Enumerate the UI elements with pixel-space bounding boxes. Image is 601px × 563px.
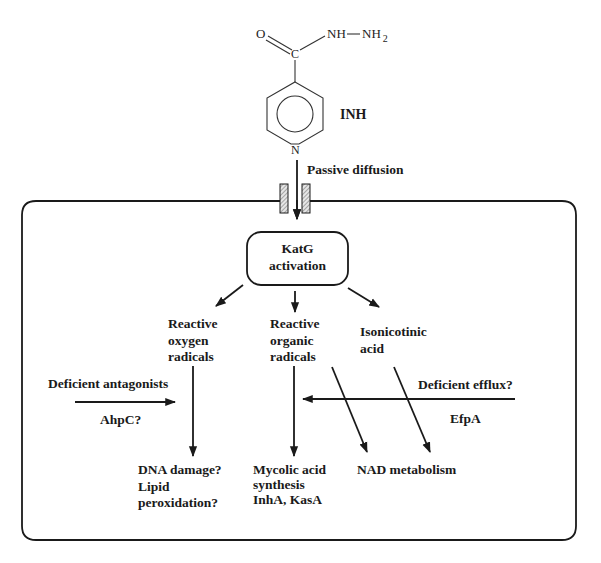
product-ros-line: radicals <box>168 349 217 366</box>
group-nh2-label: NH2 <box>362 27 388 42</box>
group-nh2-text: NH <box>362 26 381 41</box>
channel-left-bar <box>280 184 288 213</box>
arrow-to-ros <box>216 285 243 306</box>
channel-right-bar <box>302 184 310 213</box>
arrow-to-ina <box>348 288 379 307</box>
inh-label: INH <box>340 107 366 124</box>
outcome-nad: NAD metabolism <box>357 462 456 479</box>
antagonists-sublabel: AhpC? <box>100 412 141 429</box>
product-ror-line: organic <box>270 333 319 350</box>
outcome-dna-line: DNA damage? <box>138 462 222 479</box>
outcome-mycolic-line: synthesis <box>253 477 326 492</box>
product-ros-line: Reactive <box>168 316 217 333</box>
product-ros: Reactive oxygen radicals <box>168 316 217 366</box>
outcome-dna: DNA damage? Lipid peroxidation? <box>138 462 222 512</box>
product-ror-line: radicals <box>270 349 319 366</box>
c-nh-bond <box>300 36 325 50</box>
product-ror: Reactive organic radicals <box>270 316 319 366</box>
katg-label: KatG activation <box>247 241 348 274</box>
outcome-mycolic-line: InhA, KasA <box>253 492 326 507</box>
pyridine-ring <box>267 82 323 144</box>
product-ina-line: Isonicotinic <box>360 324 427 341</box>
efflux-label: Deficient efflux? <box>418 377 513 394</box>
inh-molecule <box>266 34 360 144</box>
passive-diffusion-label: Passive diffusion <box>307 162 403 179</box>
atom-n-label: N <box>291 143 300 157</box>
group-nh2-subscript: 2 <box>383 33 388 44</box>
katg-line-1: KatG <box>247 241 348 258</box>
katg-line-2: activation <box>247 258 348 275</box>
outcome-mycolic-line: Mycolic acid <box>253 462 326 477</box>
antagonists-label: Deficient antagonists <box>48 376 168 393</box>
atom-c-label: C <box>291 47 299 61</box>
group-nh-label: NH <box>327 27 346 41</box>
product-ina: Isonicotinic acid <box>360 324 427 357</box>
atom-o-label: O <box>256 27 265 41</box>
outcome-dna-line: peroxidation? <box>138 495 222 512</box>
product-ror-line: Reactive <box>270 316 319 333</box>
outcome-mycolic: Mycolic acid synthesis InhA, KasA <box>253 462 326 507</box>
outcome-dna-line: Lipid <box>138 479 222 496</box>
efflux-sublabel: EfpA <box>450 411 481 428</box>
aromatic-circle <box>277 96 313 132</box>
product-ros-line: oxygen <box>168 333 217 350</box>
arrow-ror-to-nad <box>332 367 367 452</box>
product-ina-line: acid <box>360 341 427 358</box>
